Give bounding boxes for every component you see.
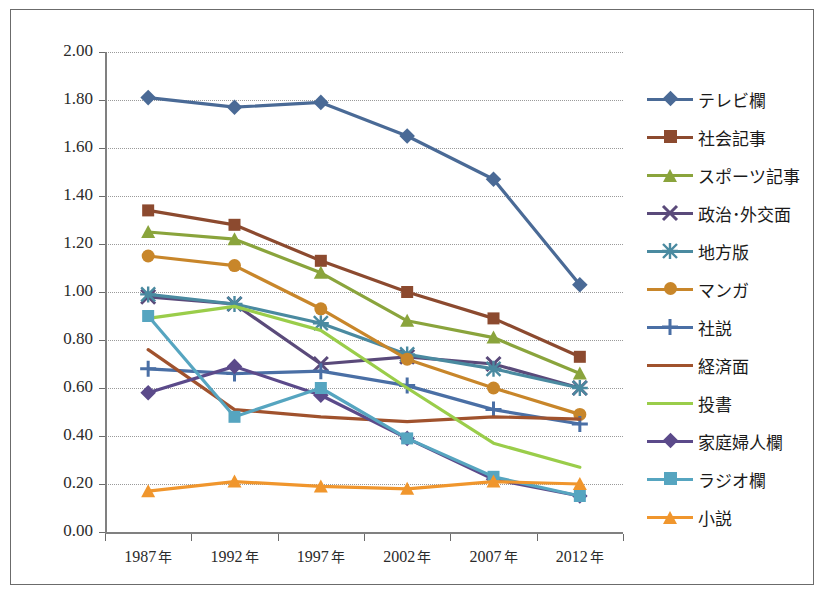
legend-label: テレビ欄 (693, 87, 766, 112)
legend-item[interactable]: 社説 (647, 308, 817, 346)
data-point (313, 95, 329, 111)
chart-legend: テレビ欄社会記事スポーツ記事政治･外交面地方版マンガ社説経済面投書家庭婦人欄ラジ… (647, 80, 817, 536)
data-point (401, 353, 414, 366)
legend-item[interactable]: テレビ欄 (647, 80, 817, 118)
legend-label: 小説 (693, 505, 732, 530)
legend-label: 経済面 (693, 353, 749, 378)
legend-item[interactable]: 小説 (647, 498, 817, 536)
data-point (313, 363, 329, 379)
data-point (574, 490, 586, 502)
data-point (399, 128, 415, 144)
legend-item[interactable]: 地方版 (647, 232, 817, 270)
legend-label: 投書 (693, 391, 732, 416)
data-point (487, 382, 500, 395)
legend-label: マンガ (693, 277, 749, 302)
legend-label: 社会記事 (693, 125, 766, 150)
legend-item[interactable]: マンガ (647, 270, 817, 308)
data-point (142, 204, 154, 216)
legend-marker-icon (647, 507, 693, 527)
series-line (148, 366, 580, 496)
legend-item[interactable]: 社会記事 (647, 118, 817, 156)
legend-marker-icon (647, 469, 693, 489)
legend-item[interactable]: 投書 (647, 384, 817, 422)
data-point (315, 255, 327, 267)
series-line (148, 98, 580, 285)
data-point (314, 302, 327, 315)
series-8 (148, 306, 580, 467)
data-point (574, 351, 586, 363)
legend-label: 地方版 (693, 239, 749, 264)
legend-item[interactable]: 経済面 (647, 346, 817, 384)
data-point (572, 380, 588, 396)
data-point (229, 219, 241, 231)
legend-marker-icon (647, 241, 693, 261)
chart-plot-area: 2.001.801.601.401.201.000.800.600.400.20… (11, 10, 815, 586)
series-line (148, 482, 580, 492)
data-point (140, 361, 156, 377)
legend-marker-icon (647, 317, 693, 337)
legend-label: 社説 (693, 315, 732, 340)
legend-label: 家庭婦人欄 (693, 429, 783, 454)
legend-marker-icon (647, 127, 693, 147)
legend-marker-icon (647, 279, 693, 299)
data-point (488, 312, 500, 324)
legend-marker-icon (647, 393, 693, 413)
chart-frame: 2.001.801.601.401.201.000.800.600.400.20… (10, 9, 814, 585)
data-point (140, 286, 156, 302)
legend-label: 政治･外交面 (693, 201, 791, 226)
data-point (228, 259, 241, 272)
legend-item[interactable]: スポーツ記事 (647, 156, 817, 194)
legend-marker-icon (647, 431, 693, 451)
legend-marker-icon (647, 203, 693, 223)
legend-item[interactable]: ラジオ欄 (647, 460, 817, 498)
series-line (148, 316, 580, 496)
data-point (315, 382, 327, 394)
legend-label: スポーツ記事 (693, 163, 800, 188)
data-point (140, 385, 156, 401)
data-point (486, 361, 502, 377)
data-point (401, 432, 413, 444)
legend-marker-icon (647, 355, 693, 375)
legend-label: ラジオ欄 (693, 467, 766, 492)
data-point (142, 310, 154, 322)
legend-marker-icon (647, 165, 693, 185)
legend-item[interactable]: 政治･外交面 (647, 194, 817, 232)
series-line (148, 306, 580, 467)
data-point (229, 411, 241, 423)
legend-item[interactable]: 家庭婦人欄 (647, 422, 817, 460)
data-point (401, 286, 413, 298)
data-point (142, 250, 155, 263)
data-point (140, 90, 156, 106)
data-point (227, 99, 243, 115)
legend-marker-icon (647, 89, 693, 109)
